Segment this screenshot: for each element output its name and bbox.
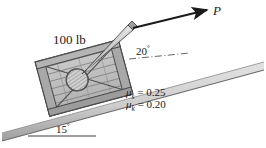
force-arrow-p [133,10,207,28]
mu-subscript-kinetic: k [132,104,135,113]
mu-kinetic-equation: = 0.20 [138,98,166,110]
diagram-canvas [0,0,266,148]
mu-static-equation: = 0.25 [137,86,165,98]
degree-symbol-force: ° [147,44,150,52]
kinetic-friction-label: μk = 0.20 [126,99,166,113]
weight-label: 100 lb [53,33,86,46]
force-angle-label: 20° [136,45,150,57]
force-angle-value: 20 [136,45,147,57]
physics-diagram: 100 lb P 20° 15° μs = 0.25 μk = 0.20 [0,0,266,148]
force-label-p: P [213,4,221,17]
incline-angle-value: 15 [56,123,67,135]
incline-angle-label: 15° [56,123,70,135]
degree-symbol-incline: ° [67,122,70,130]
